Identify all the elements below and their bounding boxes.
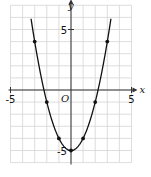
data-point bbox=[93, 100, 97, 104]
data-point bbox=[45, 100, 49, 104]
data-point bbox=[81, 137, 85, 141]
y-tick-label: -5 bbox=[57, 146, 67, 157]
parabola-chart: x y O -555-5 bbox=[0, 0, 151, 177]
x-axis-label: x bbox=[140, 84, 146, 95]
data-point bbox=[105, 40, 109, 44]
x-tick-label: -5 bbox=[6, 94, 16, 105]
x-axis-arrow bbox=[133, 88, 138, 93]
data-point bbox=[57, 137, 61, 141]
data-point bbox=[69, 149, 73, 153]
x-tick-label: 5 bbox=[128, 94, 134, 105]
y-tick-label: 5 bbox=[61, 25, 67, 36]
y-axis-label: y bbox=[67, 0, 74, 11]
origin-label: O bbox=[61, 93, 69, 104]
data-point bbox=[33, 40, 37, 44]
